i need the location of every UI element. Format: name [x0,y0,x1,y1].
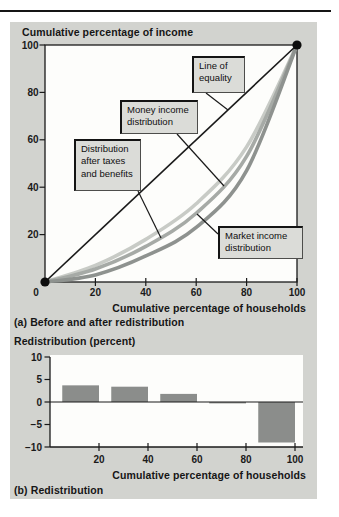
annotation-distribution-after-taxes-and-benefits: Distributionafter taxesand benefits [74,139,141,191]
chart-a-caption: (a) Before and after redistribution [14,316,184,328]
x-tick-label: 20 [93,454,105,465]
x-tick-label: 60 [191,287,203,298]
redistribution-bar [111,387,148,402]
annotation-market-income-distribution: Market incomedistribution [218,226,303,259]
annotation-text-line: Line of [199,60,239,72]
chart-b-caption: (b) Redistribution [14,484,103,496]
x-tick-label: 100 [287,454,304,465]
x-tick-label: 100 [289,287,306,298]
x-tick-label: 80 [241,287,253,298]
y-tick-label: −10 [25,442,42,453]
chart-a-title: Cumulative percentage of income [22,26,193,38]
annotation-text-line: Money income [127,104,192,116]
annotation-text-line: distribution [127,116,192,128]
chart-b-title: Redistribution (percent) [14,335,135,347]
annotation-money-income-distribution: Money incomedistribution [120,100,198,134]
annotation-text-line: distribution [225,242,297,254]
redistribution-bar [160,394,197,402]
x-tick-label: 80 [240,454,252,465]
y-tick-label: −5 [31,419,43,430]
chart-a-x-axis-label: Cumulative percentage of households [112,302,306,314]
y-tick-label: 40 [27,182,39,193]
annotation-text-line: Market income [225,230,297,242]
y-tick-label: 20 [27,229,39,240]
y-tick-label: 10 [31,352,43,363]
x-tick-label: 40 [142,454,154,465]
annotation-line-of-equality: Line ofequality [192,56,245,93]
x-tick-label: 40 [140,287,152,298]
y-tick-label: 60 [27,134,39,145]
redistribution-bar-chart: −10−5051020406080100 [10,352,317,477]
annotation-text-line: equality [199,72,239,84]
redistribution-bar [62,385,99,402]
annotation-text-line: and benefits [81,168,135,180]
y-tick-label: 100 [22,40,39,51]
x-tick-label: 0 [33,287,39,298]
y-tick-label: 80 [27,87,39,98]
endpoint-dot [40,277,49,286]
endpoint-dot [292,40,301,49]
annotation-text-line: after taxes [81,155,135,167]
lorenz-figure-page: 20406080100020406080100Line ofequalityMo… [0,0,339,517]
chart-b-x-axis-label: Cumulative percentage of households [112,469,306,481]
figure-panel: 20406080100020406080100Line ofequalityMo… [10,22,317,499]
top-rule [0,10,331,12]
x-tick-label: 60 [191,454,203,465]
x-tick-label: 20 [90,287,102,298]
redistribution-bar [258,402,295,443]
annotation-text-line: Distribution [81,143,135,155]
y-tick-label: 5 [36,374,42,385]
y-tick-label: 0 [36,397,42,408]
